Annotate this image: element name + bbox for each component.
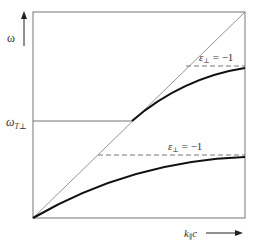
omega-t-perp-label: ωT⊥ xyxy=(6,115,26,131)
dispersion-diagram: ω ωT⊥ ε⊥ = −1 ε⊥ = −1 k∥c xyxy=(0,0,254,243)
y-axis-arrow-head-icon xyxy=(21,11,27,19)
upper-branch-curve xyxy=(132,68,245,121)
x-axis-label: k∥c xyxy=(184,227,197,241)
lower-epsilon-label: ε⊥ = −1 xyxy=(168,140,202,154)
y-axis-label: ω xyxy=(7,31,15,45)
upper-epsilon-label: ε⊥ = −1 xyxy=(199,51,233,65)
x-axis-arrow-head-icon xyxy=(235,230,243,236)
